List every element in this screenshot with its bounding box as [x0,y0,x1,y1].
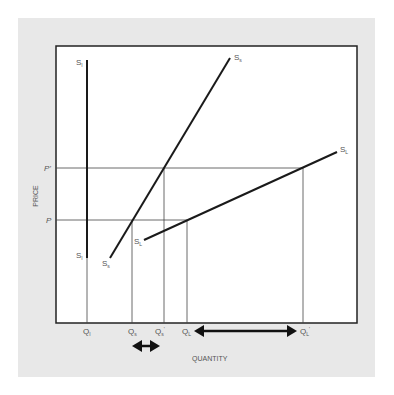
plot-area [56,46,357,323]
q-l-prime-label: QL' [300,326,310,337]
q-s-prime-label: Qs' [155,326,165,337]
p-label: P [46,216,52,225]
p-prime-label: P' [44,164,51,173]
supply-elasticity-diagram: SI SI Ss Ss SL SL P' P PRICE QI Qs Qs' Q… [0,0,394,395]
x-axis-label: QUANTITY [192,355,228,363]
y-axis-label: PRICE [32,185,39,207]
